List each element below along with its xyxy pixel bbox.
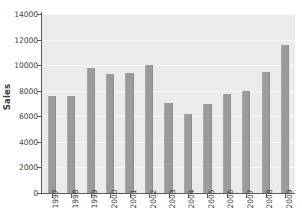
y-axis-tick-label: 0: [33, 189, 38, 198]
x-axis-tick-label-wrap: 2008: [251, 199, 281, 209]
bar: [125, 73, 133, 193]
gridline: [42, 40, 295, 41]
plot-area: [42, 14, 295, 193]
y-axis-tick-label: 12000: [14, 35, 38, 44]
x-axis-tick-label-wrap: 2004: [173, 199, 203, 209]
bar: [242, 91, 250, 193]
x-axis-tick: [227, 194, 228, 198]
x-axis-tick-label-wrap: 2005: [192, 199, 222, 209]
y-axis-tick-labels: 02000400060008000100001200014000: [14, 0, 39, 223]
x-axis-tick: [285, 194, 286, 198]
x-axis-tick: [52, 194, 53, 198]
bar: [164, 103, 172, 193]
bar: [87, 68, 95, 193]
x-axis-tick: [266, 194, 267, 198]
y-axis-tick-label: 4000: [19, 137, 38, 146]
x-axis-tick: [71, 194, 72, 198]
x-axis-tick: [91, 194, 92, 198]
gridline: [42, 14, 295, 15]
x-axis-tick: [149, 194, 150, 198]
bar: [145, 65, 153, 193]
x-axis-tick: [188, 194, 189, 198]
bar: [223, 94, 231, 193]
x-axis-tick-label-wrap: 1998: [56, 199, 86, 209]
x-axis-tick-label-wrap: 2002: [134, 199, 164, 209]
gridline: [42, 65, 295, 66]
x-axis-tick-label-wrap: 2001: [115, 199, 145, 209]
gridline: [42, 91, 295, 92]
y-axis-line: [41, 12, 42, 194]
bar-chart: Sales 02000400060008000100001200014000 1…: [0, 0, 302, 223]
x-axis-tick-label-wrap: 1997: [37, 199, 67, 209]
x-axis-tick-label-wrap: 2000: [95, 199, 125, 209]
x-axis-tick-label-wrap: 1999: [76, 199, 106, 209]
bar: [184, 114, 192, 193]
bar: [203, 104, 211, 193]
y-axis-tick-label: 10000: [14, 61, 38, 70]
y-axis-tick-label: 2000: [19, 163, 38, 172]
x-axis-tick-label-wrap: 2007: [231, 199, 261, 209]
x-axis-tick-label-wrap: 2009: [270, 199, 300, 209]
y-axis-tick-label: 14000: [14, 10, 38, 19]
bar: [262, 72, 270, 193]
bar: [48, 96, 56, 193]
x-axis-tick: [130, 194, 131, 198]
bar: [67, 96, 75, 193]
y-axis-title: Sales: [0, 0, 14, 193]
y-axis-tick-label: 6000: [19, 112, 38, 121]
x-axis-tick: [169, 194, 170, 198]
bar: [106, 74, 114, 193]
y-axis-tick-label: 8000: [19, 86, 38, 95]
bar: [281, 45, 289, 193]
x-axis-tick-label-wrap: 2003: [154, 199, 184, 209]
y-axis-title-label: Sales: [2, 83, 12, 110]
x-axis-tick: [110, 194, 111, 198]
x-axis-tick: [246, 194, 247, 198]
x-axis-tick: [207, 194, 208, 198]
x-axis-tick-label-wrap: 2006: [212, 199, 242, 209]
